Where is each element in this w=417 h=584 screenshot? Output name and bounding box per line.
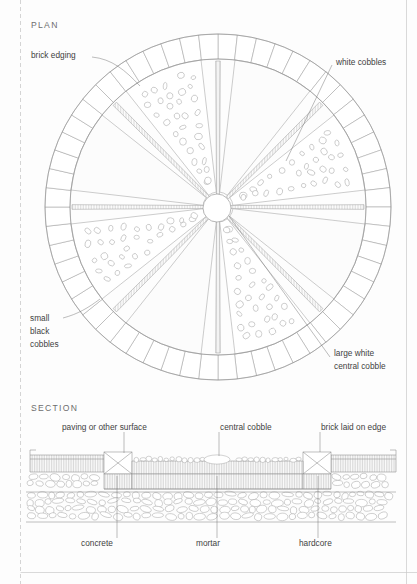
star-ray [216,220,221,353]
hardcore-stone [377,511,388,520]
hardcore-stone [351,480,361,489]
cobble-stone [147,239,153,243]
hardcore-stone [237,492,247,499]
hardcore-stone [332,480,342,485]
hardcore-stone [35,480,44,487]
cobble-stone [267,174,272,179]
hardcore-stone [83,481,90,487]
hardcore-stone [87,498,98,505]
hardcore-stone [269,492,280,500]
hardcore-stone [141,498,153,506]
label-large-white-central-cobble-line2: central cobble [334,361,386,371]
hardcore-stone [164,499,172,505]
hardcore-stone [264,514,276,520]
hardcore-stone [206,512,218,521]
hardcore-stone [365,490,375,499]
label-small-black-cobbles-line3: cobbles [30,339,59,349]
hardcore-stone [303,491,314,500]
star-ray [216,61,221,194]
hardcore-stone [241,512,254,519]
star-ray [231,205,364,210]
hardcore-stone [165,513,177,521]
cobble-stone [192,158,198,166]
hardcore-stone [369,499,375,504]
hardcore-stone [343,499,353,504]
cobble-stone [249,268,255,273]
hardcore-stone [133,498,141,504]
central-cobble-section [204,455,230,464]
hardcore-stone [205,497,217,507]
hardcore-stone [185,498,193,505]
hardcore-stone [349,492,355,497]
surface-cobble [140,458,146,461]
surface-cobble [194,458,200,463]
brick-unit [199,354,218,380]
hardcore-stone [344,482,350,488]
hardcore-stone [73,480,82,487]
hardcore-stone [292,498,302,504]
paving-right-end-tick [390,450,396,455]
hardcore-stone [107,497,120,505]
hardcore-stone [45,480,55,488]
label-hardcore: hardcore [299,538,332,548]
hardcore-stone [314,498,321,504]
hardcore-stone [69,514,76,519]
hardcore-stone [345,511,355,519]
hardcore-stone [277,513,289,521]
hardcore-stone [331,473,342,482]
hardcore-stone [132,512,141,521]
hardcore-stone [111,492,121,498]
hardcore-stone [139,504,152,513]
hardcore-stone [370,481,380,489]
surface-cobble [164,458,169,461]
hardcore-stone [260,492,267,498]
hardcore-stone [214,492,223,498]
cobble-stone [204,166,210,173]
hardcore-stone [322,505,329,511]
hardcore-stone [330,506,338,513]
cobble-stone [167,217,175,224]
hardcore-stone [194,513,206,521]
surface-cobble [176,457,182,462]
paving-left-end-tick [30,450,36,455]
hardcore-stone [360,473,368,480]
surface-cobble [266,458,270,463]
paving-right [331,455,396,472]
cobble-stone [196,123,203,128]
cobble-stone [255,330,262,337]
hardcore-stone [35,500,44,507]
hardcore-stone [283,498,291,506]
hardcore-stone [173,498,183,505]
cobble-stone [245,257,251,264]
hardcore-stone [123,512,132,518]
surface-cobble [158,456,163,461]
hardcore-stone [152,505,164,512]
mortar-bed-lower [132,474,303,489]
hardcore-stone [193,499,206,506]
surface-cobble [248,458,254,462]
surface-cobble [146,456,152,461]
hardcore-stone [282,492,294,497]
hardcore-stone [361,481,370,489]
surface-cobble [170,457,174,461]
hardcore-stone [338,514,344,521]
hardcore-stone [218,500,228,506]
hardcore-stone [254,513,263,522]
hardcore-stone [240,505,249,513]
technical-drawing: PLAN brick edging white cobbles small bl… [0,0,417,584]
section-view [26,450,396,522]
hardcore-stone [72,504,85,511]
label-concrete: concrete [81,538,113,548]
paving-left [30,455,104,472]
surface-cobble [182,458,187,463]
hardcore-stone [369,474,377,481]
hardcore-stone [268,505,276,513]
cobble-stone [252,190,258,196]
hardcore-stone [38,513,48,519]
brick-unit [218,354,237,380]
hardcore-stone [64,505,71,512]
label-paving-or-other-surface: paving or other surface [62,422,147,432]
hardcore-right [331,473,389,490]
hardcore-stone [37,491,48,498]
hardcore-stone [384,492,394,501]
